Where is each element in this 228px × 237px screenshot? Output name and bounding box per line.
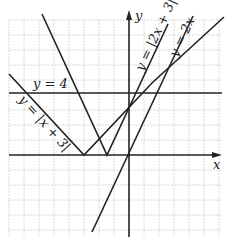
label-2x: y = 2x — [166, 14, 198, 60]
y-axis-label: y — [134, 8, 143, 23]
graph: x y y = 4 y = |x + 3| y = |2x + 3| y = 2… — [0, 0, 228, 237]
labels: x y y = 4 y = |x + 3| y = |2x + 3| y = 2… — [15, 0, 221, 172]
label-y-equals-4: y = 4 — [32, 76, 68, 91]
y-axis-arrow-icon — [126, 10, 132, 20]
x-axis-label: x — [213, 157, 221, 172]
